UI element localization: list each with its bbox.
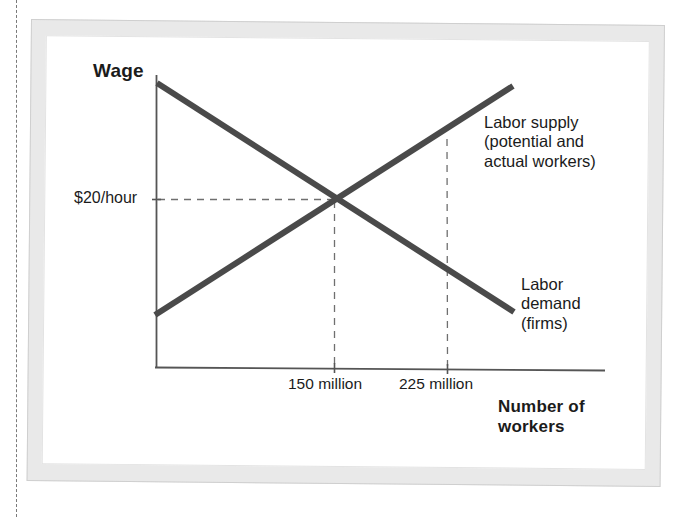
x-tick-label-225: 225 million (399, 375, 473, 393)
x-tick-label-150: 150 million (288, 375, 362, 393)
labor-demand-label: Labor demand (firms) (521, 275, 581, 333)
crop-guide-line (16, 0, 17, 517)
y-axis-title: Wage (93, 60, 144, 82)
figure-page: Wage $20/hour Labor supply (potential an… (0, 0, 692, 517)
labor-supply-label: Labor supply (potential and actual worke… (484, 113, 596, 171)
x-axis-title: Number of workers (498, 397, 585, 437)
y-axis-value-label: $20/hour (74, 189, 137, 208)
